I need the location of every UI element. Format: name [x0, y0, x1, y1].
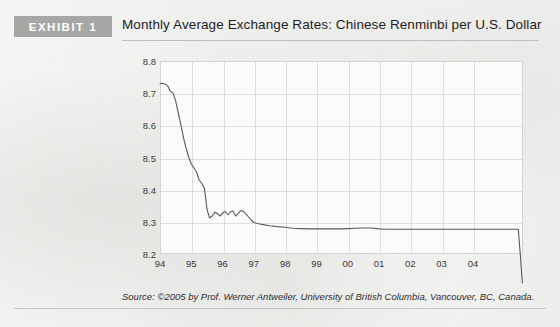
y-tick-label: 8.3 [130, 216, 156, 227]
x-tick-label: 98 [280, 258, 291, 269]
x-tick-label: 96 [217, 258, 228, 269]
x-tick-label: 04 [468, 258, 479, 269]
source-note: Source: ©2005 by Prof. Werner Antweiler,… [122, 291, 534, 302]
x-axis: 9495969798990001020304 [160, 258, 523, 274]
y-tick-label: 8.6 [130, 120, 156, 131]
data-series-layer [160, 61, 523, 254]
chart-container: 8.28.38.48.58.68.78.8 949596979899000102… [0, 46, 560, 286]
x-tick-label: 97 [249, 258, 260, 269]
x-tick-label: 00 [342, 258, 353, 269]
y-tick-label: 8.5 [130, 152, 156, 163]
x-tick-label: 99 [311, 258, 322, 269]
y-tick-label: 8.7 [130, 88, 156, 99]
x-tick-label: 94 [155, 258, 166, 269]
footer-divider [14, 308, 546, 309]
exhibit-number-badge: EXHIBIT 1 [14, 16, 112, 37]
figure-header: EXHIBIT 1 Monthly Average Exchange Rates… [0, 0, 560, 46]
y-axis: 8.28.38.48.58.68.78.8 [128, 61, 156, 254]
x-tick-label: 01 [374, 258, 385, 269]
line-series-cny-per-usd [160, 83, 522, 283]
title-divider [122, 40, 538, 41]
y-tick-label: 8.4 [130, 184, 156, 195]
y-tick-label: 8.8 [130, 56, 156, 67]
x-tick-label: 02 [405, 258, 416, 269]
y-tick-label: 8.2 [130, 249, 156, 260]
x-tick-label: 03 [436, 258, 447, 269]
x-tick-label: 95 [186, 258, 197, 269]
chart-title: Monthly Average Exchange Rates: Chinese … [122, 17, 542, 32]
exhibit-figure: EXHIBIT 1 Monthly Average Exchange Rates… [0, 0, 560, 327]
